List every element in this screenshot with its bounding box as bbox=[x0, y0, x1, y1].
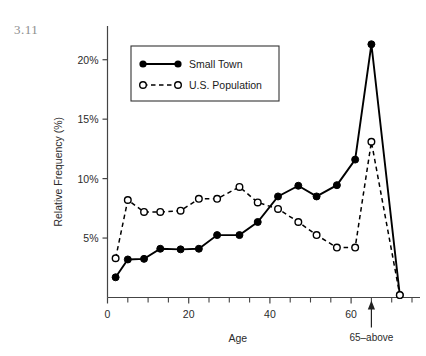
data-point bbox=[368, 138, 375, 145]
data-point bbox=[157, 209, 164, 216]
legend-box bbox=[131, 46, 279, 101]
x-axis-title: Age bbox=[228, 332, 247, 344]
data-point bbox=[112, 274, 119, 281]
data-point bbox=[214, 196, 221, 203]
data-point bbox=[141, 255, 148, 262]
data-point bbox=[177, 246, 184, 253]
data-point bbox=[313, 193, 320, 200]
legend-marker bbox=[175, 82, 182, 89]
x-tick-label: 0 bbox=[105, 308, 111, 320]
data-point bbox=[236, 232, 243, 239]
data-point bbox=[254, 219, 261, 226]
annotation-label-65-above: 65–above bbox=[349, 332, 393, 343]
annotation-arrow-head bbox=[368, 301, 375, 310]
data-point bbox=[254, 199, 261, 206]
x-tick-label: 40 bbox=[264, 308, 276, 320]
data-point bbox=[275, 206, 282, 213]
data-point bbox=[236, 184, 243, 191]
data-point bbox=[397, 292, 404, 299]
data-point bbox=[334, 244, 341, 251]
data-point bbox=[141, 209, 148, 216]
data-point bbox=[157, 245, 164, 252]
chart-canvas: 5%10%15%20%0204060 65–above Small TownU.… bbox=[0, 0, 426, 356]
legend-label-2: U.S. Population bbox=[189, 79, 262, 91]
x-tick-label: 20 bbox=[183, 308, 195, 320]
legend-marker bbox=[174, 60, 181, 67]
y-tick-label: 20% bbox=[77, 54, 98, 66]
data-point bbox=[333, 182, 340, 189]
y-tick-label: 10% bbox=[77, 173, 98, 185]
y-tick-label: 15% bbox=[77, 113, 98, 125]
data-point bbox=[352, 156, 359, 163]
data-point bbox=[112, 255, 119, 262]
data-point bbox=[313, 232, 320, 239]
data-point bbox=[368, 41, 375, 48]
data-point bbox=[196, 196, 203, 203]
legend-label-1: Small Town bbox=[189, 58, 243, 70]
x-tick-label: 60 bbox=[345, 308, 357, 320]
axis-titles: AgeRelative Frequency (%) bbox=[52, 117, 247, 344]
data-point bbox=[125, 197, 132, 204]
data-point bbox=[295, 219, 302, 226]
data-point bbox=[275, 193, 282, 200]
chart-legend: Small TownU.S. Population bbox=[131, 46, 279, 101]
legend-marker bbox=[139, 60, 146, 67]
line-chart-svg: 5%10%15%20%0204060 65–above Small TownU.… bbox=[0, 0, 426, 356]
data-point bbox=[195, 245, 202, 252]
y-axis-title: Relative Frequency (%) bbox=[52, 117, 64, 227]
data-point bbox=[352, 244, 359, 251]
legend-marker bbox=[140, 82, 147, 89]
data-point bbox=[124, 256, 131, 263]
y-tick-label: 5% bbox=[83, 232, 98, 244]
data-point bbox=[295, 182, 302, 189]
data-point bbox=[177, 207, 184, 214]
data-point bbox=[214, 232, 221, 239]
